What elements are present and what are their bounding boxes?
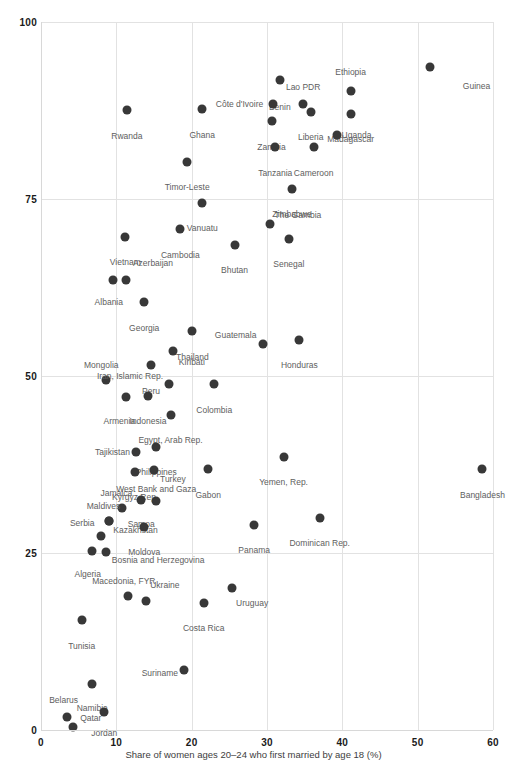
data-point[interactable] xyxy=(346,110,355,119)
data-point[interactable] xyxy=(141,597,150,606)
data-point[interactable] xyxy=(140,298,149,307)
data-point-label: Uruguay xyxy=(236,598,268,607)
gridline-horizontal xyxy=(41,22,493,23)
x-axis-tick-label: 50 xyxy=(412,737,424,748)
data-point[interactable] xyxy=(309,143,318,152)
data-point[interactable] xyxy=(333,131,342,140)
data-point-label: Kazakhstan xyxy=(113,526,157,535)
data-point[interactable] xyxy=(137,495,146,504)
x-axis-line xyxy=(41,730,493,731)
data-point[interactable] xyxy=(146,361,155,370)
data-point-label: Tunisia xyxy=(68,642,95,651)
data-point[interactable] xyxy=(275,76,284,85)
data-point-label: Vanuatu xyxy=(187,224,218,233)
data-point-label: Jamaica xyxy=(101,489,133,498)
data-point[interactable] xyxy=(271,142,280,151)
data-point[interactable] xyxy=(131,447,140,456)
data-point[interactable] xyxy=(259,340,268,349)
data-point[interactable] xyxy=(96,532,105,541)
data-point[interactable] xyxy=(121,232,130,241)
data-point[interactable] xyxy=(299,100,308,109)
data-point-label: Yemen, Rep. xyxy=(259,478,308,487)
data-point[interactable] xyxy=(230,241,239,250)
data-point[interactable] xyxy=(109,276,118,285)
data-point-label: Lao PDR xyxy=(286,83,321,92)
data-point[interactable] xyxy=(315,513,324,522)
data-point[interactable] xyxy=(152,442,161,451)
data-point[interactable] xyxy=(122,276,131,285)
data-point-label: Senegal xyxy=(273,260,304,269)
data-point[interactable] xyxy=(104,517,113,526)
data-point-label: Belarus xyxy=(49,696,78,705)
x-axis-tick-label: 60 xyxy=(487,737,499,748)
data-point-label: Egypt, Arab Rep. xyxy=(138,436,202,445)
gridline-horizontal xyxy=(41,199,493,200)
data-point[interactable] xyxy=(101,548,110,557)
data-point-label: Qatar xyxy=(80,714,101,723)
data-point[interactable] xyxy=(426,62,435,71)
data-point[interactable] xyxy=(210,380,219,389)
data-point[interactable] xyxy=(204,465,213,474)
data-point[interactable] xyxy=(267,117,276,126)
data-point[interactable] xyxy=(122,105,131,114)
data-point[interactable] xyxy=(165,380,174,389)
data-point[interactable] xyxy=(143,391,152,400)
x-axis-tick-label: 40 xyxy=(336,737,348,748)
data-point[interactable] xyxy=(284,234,293,243)
data-point[interactable] xyxy=(269,100,278,109)
data-point[interactable] xyxy=(122,393,131,402)
data-point[interactable] xyxy=(183,158,192,167)
data-point-label: Georgia xyxy=(129,324,159,333)
data-point[interactable] xyxy=(150,466,159,475)
data-point[interactable] xyxy=(306,107,315,116)
data-point-label: Costa Rica xyxy=(183,624,225,633)
y-axis-tick-label: 25 xyxy=(1,548,37,559)
data-point[interactable] xyxy=(168,347,177,356)
data-point-label: Honduras xyxy=(281,361,318,370)
data-point[interactable] xyxy=(188,327,197,336)
data-point-label: Kiribati xyxy=(179,358,205,367)
data-point[interactable] xyxy=(88,546,97,555)
scatter-chart: GuineaEthiopiaBeninMadagascarLao PDRCôte… xyxy=(0,0,507,769)
data-point-label: Timor-Leste xyxy=(165,183,210,192)
data-point-label: Albania xyxy=(95,298,123,307)
data-point-label: Ukraine xyxy=(150,581,179,590)
data-point[interactable] xyxy=(124,592,133,601)
data-point[interactable] xyxy=(346,86,355,95)
data-point[interactable] xyxy=(266,220,275,229)
gridline-vertical xyxy=(493,22,494,730)
data-point-label: Guinea xyxy=(463,81,490,90)
data-point-label: Macedonia, FYR xyxy=(92,577,155,586)
x-axis-title: Share of women ages 20–24 who first marr… xyxy=(0,749,507,760)
data-point[interactable] xyxy=(227,584,236,593)
data-point[interactable] xyxy=(250,520,259,529)
data-point[interactable] xyxy=(198,198,207,207)
data-point[interactable] xyxy=(62,713,71,722)
data-point[interactable] xyxy=(199,598,208,607)
data-point[interactable] xyxy=(176,225,185,234)
data-point[interactable] xyxy=(279,452,288,461)
data-point[interactable] xyxy=(295,335,304,344)
data-point[interactable] xyxy=(166,410,175,419)
data-point-label: Bangladesh xyxy=(460,491,505,500)
data-point-label: Tajikistan xyxy=(95,448,130,457)
data-point-label: Liberia xyxy=(298,133,324,142)
data-point[interactable] xyxy=(180,665,189,674)
y-axis-tick-label: 100 xyxy=(1,17,37,28)
data-point[interactable] xyxy=(478,465,487,474)
data-point[interactable] xyxy=(152,497,161,506)
data-point-label: Azerbaijan xyxy=(133,258,173,267)
data-point-label: Guatemala xyxy=(215,331,257,340)
data-point[interactable] xyxy=(88,679,97,688)
x-axis-tick-label: 0 xyxy=(38,737,44,748)
data-point[interactable] xyxy=(198,105,207,114)
data-point-label: Panama xyxy=(238,546,270,555)
data-point-label: Dominican Rep. xyxy=(289,539,349,548)
data-point-label: Gabon xyxy=(195,491,221,500)
data-point[interactable] xyxy=(77,616,86,625)
data-point[interactable] xyxy=(287,185,296,194)
data-point[interactable] xyxy=(131,467,140,476)
data-point[interactable] xyxy=(140,522,149,531)
y-axis-tick-label: 75 xyxy=(1,194,37,205)
data-point-label: Ghana xyxy=(189,131,215,140)
